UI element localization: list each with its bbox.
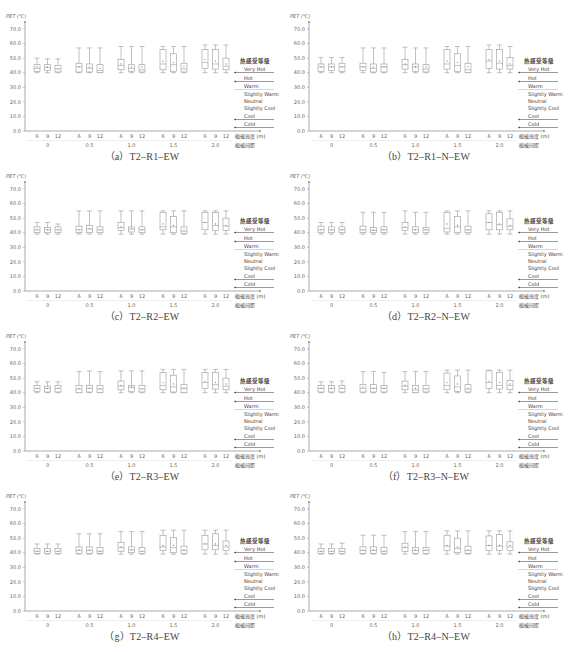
legend-level-label: Very Hot bbox=[528, 386, 550, 393]
y-tick-label: 20.0 bbox=[294, 259, 305, 265]
box-item bbox=[329, 382, 335, 393]
y-tick-label: 60.0 bbox=[294, 360, 305, 366]
box-item bbox=[160, 369, 166, 392]
box-item bbox=[55, 382, 61, 393]
box-plot: PET (℃)0.010.020.030.040.050.060.070.069… bbox=[0, 320, 284, 480]
legend-level-label: Warm bbox=[528, 563, 543, 569]
box-item bbox=[87, 48, 93, 73]
y-axis-label: PET (℃) bbox=[6, 333, 26, 339]
box-item bbox=[160, 530, 166, 554]
x-inner-tick: 6 bbox=[361, 613, 364, 619]
chart-panel-g: PET (℃)0.010.020.030.040.050.060.070.069… bbox=[0, 480, 284, 640]
x-inner-tick: 6 bbox=[77, 453, 80, 459]
y-tick-label: 60.0 bbox=[10, 40, 21, 46]
box-item bbox=[223, 530, 229, 554]
x-inner-tick: 6 bbox=[35, 613, 38, 619]
x-inner-tick: 12 bbox=[55, 293, 61, 299]
x-inner-tick: 9 bbox=[46, 133, 49, 139]
legend-level-label: Cool bbox=[244, 113, 255, 119]
y-tick-label: 30.0 bbox=[10, 404, 21, 410]
box-item bbox=[507, 211, 513, 234]
box-item bbox=[497, 531, 503, 554]
legend-level-label: Slightly Warm bbox=[528, 91, 563, 98]
box-item bbox=[34, 223, 40, 235]
legend-level-label: Cold bbox=[528, 121, 539, 127]
y-tick-label: 10.0 bbox=[294, 113, 305, 119]
y-tick-label: 70.0 bbox=[294, 186, 305, 192]
chart-panel-c: PET (℃)0.010.020.030.040.050.060.070.069… bbox=[0, 160, 284, 320]
y-axis-label: PET (℃) bbox=[6, 493, 26, 499]
y-tick-label: 50.0 bbox=[10, 375, 21, 381]
legend-level-label: Slightly Cool bbox=[244, 105, 275, 112]
x-inner-axis-label: 植被高度 (m) bbox=[235, 453, 265, 460]
x-inner-tick: 12 bbox=[97, 453, 103, 459]
x-inner-tick: 9 bbox=[456, 453, 459, 459]
box-item bbox=[329, 223, 335, 235]
x-inner-tick: 6 bbox=[487, 453, 490, 459]
legend-level-label: Cool bbox=[528, 113, 539, 119]
y-tick-label: 40.0 bbox=[294, 69, 305, 75]
x-inner-tick: 9 bbox=[414, 133, 417, 139]
box-item bbox=[118, 532, 124, 555]
box-item bbox=[318, 382, 324, 393]
x-inner-tick: 12 bbox=[55, 133, 61, 139]
y-tick-label: 50.0 bbox=[10, 535, 21, 541]
y-tick-label: 0.0 bbox=[13, 608, 21, 614]
x-inner-tick: 9 bbox=[130, 293, 133, 299]
x-inner-tick: 12 bbox=[181, 453, 187, 459]
box-item bbox=[507, 531, 513, 554]
y-axis-label: PET (℃) bbox=[6, 173, 26, 179]
y-tick-label: 40.0 bbox=[294, 389, 305, 395]
x-inner-axis-label: 植被高度 (m) bbox=[519, 613, 549, 620]
y-tick-label: 10.0 bbox=[294, 593, 305, 599]
y-tick-label: 30.0 bbox=[294, 564, 305, 570]
legend-level-label: Very Hot bbox=[244, 226, 266, 233]
x-inner-tick: 6 bbox=[319, 293, 322, 299]
x-inner-tick: 9 bbox=[414, 613, 417, 619]
box-item bbox=[413, 212, 419, 234]
y-tick-label: 10.0 bbox=[10, 113, 21, 119]
y-tick-label: 60.0 bbox=[294, 40, 305, 46]
y-tick-label: 70.0 bbox=[10, 346, 21, 352]
x-inner-tick: 6 bbox=[161, 613, 164, 619]
legend-level-label: Cold bbox=[244, 121, 255, 127]
box-item bbox=[360, 372, 366, 393]
box-item bbox=[455, 46, 461, 72]
y-tick-label: 50.0 bbox=[294, 375, 305, 381]
box-item bbox=[444, 46, 450, 72]
y-tick-label: 30.0 bbox=[10, 564, 21, 570]
box-item bbox=[497, 370, 503, 393]
x-inner-tick: 9 bbox=[214, 293, 217, 299]
y-tick-label: 0.0 bbox=[13, 448, 21, 454]
x-inner-tick: 12 bbox=[97, 293, 103, 299]
x-inner-axis-label: 植被高度 (m) bbox=[235, 293, 265, 300]
box-item bbox=[465, 46, 471, 72]
x-inner-tick: 6 bbox=[445, 453, 448, 459]
x-inner-tick: 9 bbox=[498, 613, 501, 619]
chart-panel-e: PET (℃)0.010.020.030.040.050.060.070.069… bbox=[0, 320, 284, 480]
x-inner-tick: 9 bbox=[214, 133, 217, 139]
legend-title: 热感受等级 bbox=[524, 217, 554, 225]
x-inner-tick: 6 bbox=[445, 133, 448, 139]
y-tick-label: 40.0 bbox=[10, 69, 21, 75]
box-plot: PET (℃)0.010.020.030.040.050.060.070.069… bbox=[284, 0, 568, 160]
x-inner-tick: 12 bbox=[223, 613, 229, 619]
box-item bbox=[360, 48, 366, 73]
x-inner-axis-label: 植被高度 (m) bbox=[519, 133, 549, 140]
x-inner-tick: 12 bbox=[55, 453, 61, 459]
x-inner-tick: 9 bbox=[130, 613, 133, 619]
x-inner-tick: 9 bbox=[330, 293, 333, 299]
x-inner-tick: 9 bbox=[214, 453, 217, 459]
legend-level-label: Slightly Warm bbox=[528, 411, 563, 418]
x-inner-tick: 6 bbox=[445, 293, 448, 299]
box-item bbox=[55, 59, 61, 73]
box-item bbox=[381, 48, 387, 73]
x-inner-tick: 6 bbox=[319, 453, 322, 459]
legend-title: 热感受等级 bbox=[240, 217, 270, 225]
legend-level-label: Slightly Warm bbox=[244, 571, 279, 578]
chart-panel-a: PET (℃)0.010.020.030.040.050.060.070.069… bbox=[0, 0, 284, 160]
box-item bbox=[465, 531, 471, 554]
legend-level-label: Very Hot bbox=[528, 226, 550, 233]
y-tick-label: 70.0 bbox=[10, 26, 21, 32]
box-item bbox=[402, 372, 408, 393]
